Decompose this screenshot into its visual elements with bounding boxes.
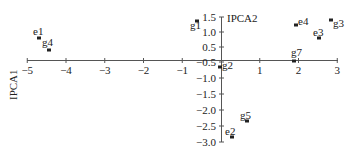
point-label: g7	[291, 46, 303, 58]
y-tick-label: −1.5	[196, 88, 216, 100]
point-label: e4	[298, 15, 309, 27]
x-tick-label: −3	[99, 64, 111, 76]
point-marker	[47, 49, 51, 52]
x-tick-label: −4	[60, 64, 72, 76]
y-tick-label: −2.0	[196, 104, 216, 116]
y-tick-label: −1.0	[196, 72, 216, 84]
x-tick-label: −1	[176, 64, 188, 76]
y-tick-label: 1.5	[202, 11, 216, 23]
x-tick-label: −2	[138, 64, 150, 76]
y-tick-label: −3.0	[196, 136, 216, 148]
data-point: g4	[42, 36, 54, 52]
x-tick-label: 3	[335, 64, 341, 76]
point-marker	[292, 60, 296, 63]
data-points: e1g4g1g2e2g5e4g3e3g7	[33, 15, 345, 139]
y-axis-title: IPCA2	[227, 12, 258, 24]
point-label: g3	[333, 17, 345, 29]
scatter-chart: −5−4−3−2−1123 1.51.00.5−0.5−1.0−1.5−2.0−…	[0, 0, 352, 161]
x-tick-label: 1	[257, 64, 263, 76]
y-tick-label: −0.5	[196, 56, 216, 68]
y-tick-label: 0.5	[202, 41, 216, 53]
data-point: e4	[294, 15, 309, 27]
point-label: g2	[222, 59, 233, 71]
y-tick-label: −2.5	[196, 120, 216, 132]
data-point: g3	[329, 17, 345, 29]
data-point: g5	[240, 109, 252, 123]
data-point: e3	[313, 26, 324, 40]
point-label: g1	[190, 19, 201, 31]
y-tick-label: 1.0	[202, 26, 216, 38]
point-label: g5	[240, 109, 252, 121]
x-axis-title: IPCA1	[7, 69, 19, 100]
data-point: g1	[190, 19, 201, 31]
x-tick-label: −5	[21, 64, 33, 76]
point-label: e2	[225, 125, 235, 137]
point-label: g4	[42, 36, 54, 48]
data-point: e2	[225, 125, 235, 139]
x-tick-label: 2	[296, 64, 302, 76]
point-label: e3	[313, 26, 324, 38]
y-ticks: 1.51.00.5−0.5−1.0−1.5−2.0−2.5−3.0	[196, 11, 224, 148]
